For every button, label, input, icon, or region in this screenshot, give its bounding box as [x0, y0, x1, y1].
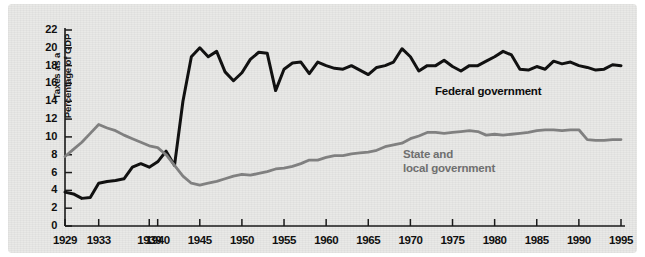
- y-tick-label: 6: [23, 166, 57, 178]
- x-tick-label: 1980: [471, 234, 519, 246]
- x-tick-label: 1995: [597, 234, 645, 246]
- y-tick-label: 16: [23, 76, 57, 88]
- chart-figure: Taxes as a Percentage of GDP Federal gov…: [0, 0, 645, 257]
- y-tick-label: 20: [23, 41, 57, 53]
- chart-series: [65, 48, 621, 199]
- x-tick-label: 1955: [260, 234, 308, 246]
- x-tick-label: 1945: [176, 234, 224, 246]
- x-tick-label: 1960: [302, 234, 350, 246]
- y-tick-label: 0: [23, 219, 57, 231]
- chart-plot-svg: [0, 0, 645, 257]
- y-tick-label: 2: [23, 201, 57, 213]
- y-tick-label: 12: [23, 112, 57, 124]
- x-tick-label: 1950: [218, 234, 266, 246]
- x-tick-label: 1990: [555, 234, 603, 246]
- x-tick-label: 1933: [75, 234, 123, 246]
- chart-axes: [65, 28, 625, 226]
- x-tick-label: 1940: [134, 234, 182, 246]
- x-tick-label: 1975: [429, 234, 477, 246]
- y-tick-label: 10: [23, 130, 57, 142]
- y-tick-label: 18: [23, 59, 57, 71]
- y-tick-label: 8: [23, 148, 57, 160]
- x-tick-label: 1970: [386, 234, 434, 246]
- y-tick-label: 22: [23, 23, 57, 35]
- y-tick-label: 14: [23, 94, 57, 106]
- x-tick-label: 1985: [513, 234, 561, 246]
- y-tick-label: 4: [23, 183, 57, 195]
- x-tick-label: 1965: [344, 234, 392, 246]
